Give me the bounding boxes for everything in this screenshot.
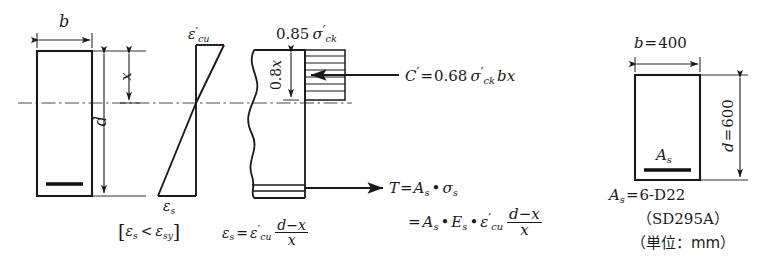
tension-force-equation-line1: T=As•σs bbox=[389, 179, 458, 197]
compression-sigma: σ bbox=[470, 67, 480, 85]
concrete-stress-label: 0.85σ′ck bbox=[276, 25, 337, 42]
stress-sigma-sub: ck bbox=[326, 33, 338, 44]
cross-section-depth-label: d=600 bbox=[721, 99, 736, 152]
compression-equals: = bbox=[420, 67, 433, 85]
caption-as-equals: = bbox=[626, 186, 639, 204]
compression-coefficient: 0.68 bbox=[434, 67, 467, 85]
compression-force-equation: C′=0.68σ′ckbx bbox=[405, 65, 515, 85]
compression-symbol: C bbox=[405, 67, 416, 85]
tension2-fraction: d−xx bbox=[507, 207, 542, 239]
neutral-axis-depth-label: x bbox=[119, 72, 134, 80]
tension2-dot1: • bbox=[441, 213, 450, 231]
cs-depth-symbol: d bbox=[719, 142, 737, 152]
tension-sigma: σ bbox=[442, 179, 452, 197]
cs-width-symbol: b bbox=[634, 34, 644, 52]
strain-top-sub: cu bbox=[198, 33, 209, 44]
condition-sub2: sy bbox=[163, 230, 173, 241]
caption-steel-grade: （SD295A） bbox=[637, 212, 729, 227]
condition-sub1: s bbox=[133, 230, 138, 241]
caption-as-value: 6-D22 bbox=[640, 186, 686, 204]
tension2-dot2: • bbox=[469, 213, 478, 231]
caption-as-sub: s bbox=[620, 194, 625, 205]
strain-tension-slope bbox=[158, 103, 196, 196]
beam-depth-label: d bbox=[93, 116, 109, 126]
beam-section-outline bbox=[37, 51, 92, 196]
stress-block-depth-label: 0.8x bbox=[269, 60, 283, 90]
strain-eq-lhs-eps: ε bbox=[222, 225, 230, 241]
strain-eq-numerator: d−x bbox=[275, 218, 308, 232]
stress-sigma: σ bbox=[312, 25, 322, 43]
strain-bottom-eps: ε bbox=[163, 198, 171, 214]
cs-width-value: 400 bbox=[658, 34, 687, 52]
strain-bottom-label: εs bbox=[163, 199, 175, 213]
stress-depth-coef: 0.8 bbox=[268, 68, 284, 90]
tension-symbol: T bbox=[389, 179, 399, 197]
condition-relation: < bbox=[141, 223, 153, 239]
tension2-equals: = bbox=[408, 213, 421, 231]
tension2-denominator: x bbox=[507, 222, 542, 238]
condition-eps1: ε bbox=[125, 223, 133, 239]
strain-eq-lhs-sub: s bbox=[230, 231, 235, 242]
compression-tail: bx bbox=[497, 67, 515, 85]
cs-width-equals: = bbox=[645, 34, 658, 52]
tension-as-sub: s bbox=[424, 187, 429, 198]
caption-unit-note: （単位：mm） bbox=[631, 236, 735, 251]
strain-eq-rhs-sub: cu bbox=[260, 231, 271, 242]
tension2-eps-sub: cu bbox=[491, 221, 503, 232]
strain-top-eps: ε bbox=[188, 26, 196, 42]
tension-as: A bbox=[414, 179, 425, 197]
stress-coefficient: 0.85 bbox=[276, 25, 309, 43]
strain-equation: εs=ε′cud−xx bbox=[222, 218, 308, 248]
strain-bottom-sub: s bbox=[171, 205, 176, 216]
strain-diagram-group bbox=[158, 45, 224, 196]
tension2-as: A bbox=[423, 213, 434, 231]
compression-prime: ′ bbox=[416, 65, 419, 80]
tension2-es: E bbox=[451, 213, 462, 231]
beam-section-group bbox=[37, 33, 146, 196]
cs-as-symbol: A bbox=[656, 146, 667, 164]
strain-eq-fraction: d−xx bbox=[275, 218, 308, 248]
tension2-es-sub: s bbox=[462, 221, 467, 232]
condition-eps2: ε bbox=[155, 223, 163, 239]
cs-as-sub: s bbox=[667, 154, 672, 165]
condition-close-bracket: ] bbox=[173, 220, 180, 242]
caption-as-symbol: A bbox=[609, 186, 620, 204]
strain-condition-bracket: [εs<εsy] bbox=[118, 222, 180, 241]
compression-sigma-sub: ck bbox=[484, 75, 496, 86]
tension-force-equation-line2: =As•Es•ε′cud−xx bbox=[408, 207, 542, 239]
cross-section-width-label: b=400 bbox=[634, 36, 687, 51]
strain-top-label: ε′cu bbox=[188, 26, 209, 41]
stress-hatch-lines bbox=[305, 56, 345, 91]
strain-eq-rhs-eps: ε bbox=[250, 225, 258, 241]
tension-dot: • bbox=[432, 179, 441, 197]
break-line-edge bbox=[248, 50, 257, 198]
tension2-as-sub: s bbox=[433, 221, 438, 232]
cs-depth-equals: = bbox=[719, 129, 737, 142]
cross-section-rebar-area-label: As bbox=[656, 148, 672, 163]
beam-width-label: b bbox=[59, 14, 69, 30]
strain-compression-slope bbox=[196, 45, 224, 103]
strain-eq-denominator: x bbox=[275, 232, 308, 247]
tension2-numerator: d−x bbox=[507, 207, 542, 222]
cs-depth-value: 600 bbox=[719, 99, 737, 128]
tension-sigma-sub: s bbox=[453, 187, 458, 198]
caption-rebar-spec: As=6-D22 bbox=[609, 188, 685, 203]
stress-depth-x: x bbox=[268, 60, 284, 68]
tension-equals: = bbox=[400, 179, 413, 197]
strain-eq-equals: = bbox=[236, 225, 248, 241]
